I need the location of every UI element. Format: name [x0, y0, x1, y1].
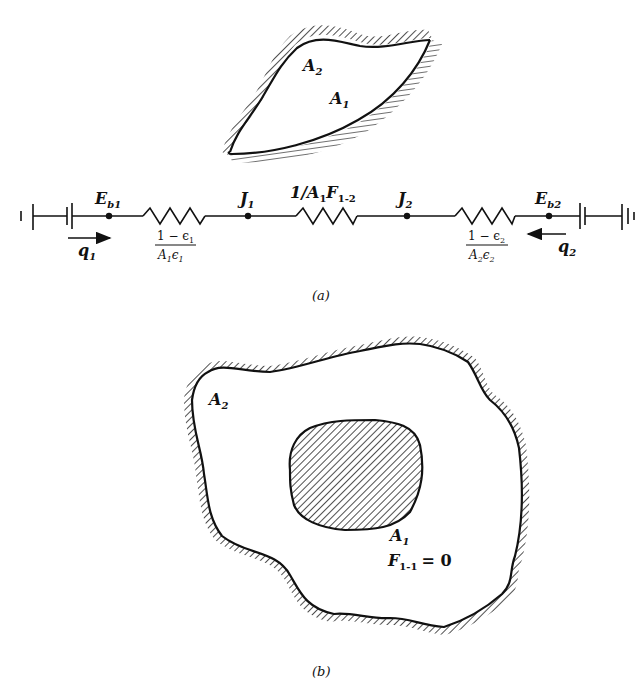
node-j1 — [245, 213, 251, 219]
caption-b: (b) — [312, 664, 330, 679]
node-eb2 — [546, 213, 552, 219]
label-r1-numerator: 1 − ϵ1 — [157, 229, 194, 245]
label-j1: J1 — [237, 189, 255, 210]
caption-a: (a) — [312, 288, 330, 303]
label-eb2: Eb2 — [534, 189, 561, 210]
label-a1: A1 — [328, 89, 349, 110]
circuit-labels: Eb1 J1 J2 Eb2 1/A1F1-2 1 − ϵ1 A1ϵ1 1 − ϵ… — [78, 183, 576, 264]
panel-a-enclosure: A2 A1 — [222, 25, 442, 162]
label-a2: A2 — [301, 56, 322, 77]
resistor-surface-1 — [143, 208, 205, 224]
label-q1: q1 — [78, 241, 96, 262]
resistor-surface-2 — [455, 208, 515, 224]
label-r2-numerator: 1 − ϵ2 — [468, 229, 505, 245]
surface-a1-body — [290, 420, 423, 530]
radiation-network-figure: A2 A1 — [0, 0, 644, 689]
node-eb1 — [106, 213, 112, 219]
resistor-space — [296, 208, 357, 224]
label-q2: q2 — [558, 237, 576, 258]
label-r1-denominator: A1ϵ1 — [157, 248, 184, 264]
label-eb1: Eb1 — [94, 189, 121, 210]
panel-b-enclosure: A2 A1 F1-1= 0 — [184, 337, 529, 635]
label-r2-denominator: A2ϵ2 — [468, 248, 495, 264]
label-space-resistance: 1/A1F1-2 — [290, 183, 356, 204]
label-j2: J2 — [395, 189, 413, 210]
node-j2 — [404, 213, 410, 219]
